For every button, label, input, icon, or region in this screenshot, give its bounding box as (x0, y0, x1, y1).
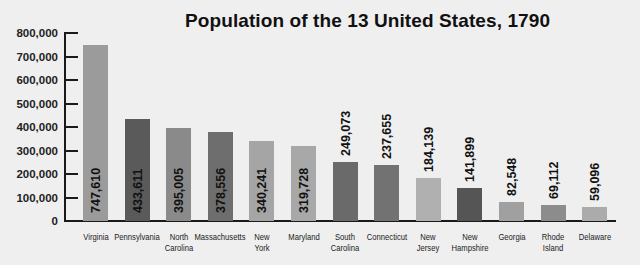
x-tick-label-line: Delaware (565, 232, 625, 243)
y-tick-label: 800,000 (16, 27, 58, 39)
y-tick-label: 200,000 (16, 168, 58, 180)
y-tick-mark (64, 126, 78, 128)
y-tick-mark (64, 197, 78, 199)
y-tick-label: 0 (52, 215, 58, 227)
bar-value-label: 141,899 (463, 136, 477, 181)
y-tick-mark (64, 103, 78, 105)
y-tick-label: 700,000 (16, 51, 58, 63)
chart-title: Population of the 13 United States, 1790 (185, 10, 550, 32)
y-tick-mark (64, 79, 78, 81)
bar-value-label: 395,005 (172, 168, 186, 213)
bar-value-label: 378,556 (214, 168, 228, 213)
bar-south-carolina (333, 162, 358, 221)
bar-value-label: 747,610 (89, 168, 103, 213)
y-tick-label: 300,000 (16, 145, 58, 157)
bar-value-label: 340,241 (255, 168, 269, 213)
x-tick-label-line: Hampshire (440, 243, 500, 254)
y-tick-mark (64, 220, 78, 222)
y-tick-label: 500,000 (16, 98, 58, 110)
x-tick-label-line: Carolina (315, 243, 375, 254)
bar-delaware (582, 207, 607, 221)
bar-value-label: 69,112 (547, 161, 561, 199)
x-tick-label-line: Carolina (149, 243, 209, 254)
y-tick-mark (64, 173, 78, 175)
y-tick-label: 400,000 (16, 121, 58, 133)
bar-new-hampshire (457, 188, 482, 221)
bar-value-label: 319,728 (297, 168, 311, 213)
bar-value-label: 249,073 (339, 111, 353, 156)
x-tick-label-line: York (232, 243, 292, 254)
bar-georgia (499, 202, 524, 221)
y-tick-label: 100,000 (16, 192, 58, 204)
y-tick-label: 600,000 (16, 74, 58, 86)
bar-value-label: 82,548 (505, 157, 519, 195)
x-tick-label-line: Island (523, 243, 583, 254)
bar-value-label: 237,655 (380, 114, 394, 159)
y-tick-mark (64, 56, 78, 58)
bar-new-jersey (416, 178, 441, 221)
bar-value-label: 184,139 (422, 127, 436, 172)
x-tick-label: Delaware (565, 232, 625, 243)
y-tick-mark (64, 32, 78, 34)
y-tick-mark (64, 150, 78, 152)
bar-rhode-island (541, 205, 566, 221)
bar-value-label: 59,096 (588, 163, 602, 201)
bar-connecticut (374, 165, 399, 221)
bar-value-label: 433,611 (131, 169, 145, 214)
